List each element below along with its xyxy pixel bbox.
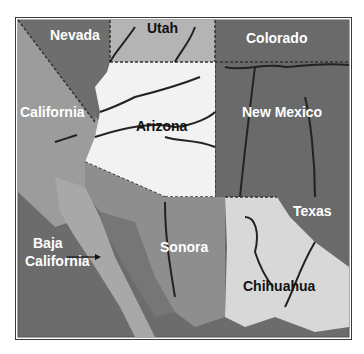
label-sonora: Sonora <box>160 239 208 255</box>
label-baja-line2: California <box>25 253 90 269</box>
label-chihuahua: Chihuahua <box>243 278 316 294</box>
label-nevada: Nevada <box>50 27 100 43</box>
label-colorado: Colorado <box>246 30 307 46</box>
label-texas: Texas <box>293 203 332 219</box>
label-arizona: Arizona <box>136 118 188 134</box>
label-california: California <box>20 104 85 120</box>
label-baja-line1: Baja <box>33 235 63 251</box>
label-new-mexico: New Mexico <box>242 104 322 120</box>
map-figure: Nevada Utah Colorado California Arizona … <box>15 17 352 340</box>
map-svg: Nevada Utah Colorado California Arizona … <box>15 17 352 340</box>
label-utah: Utah <box>147 20 178 36</box>
